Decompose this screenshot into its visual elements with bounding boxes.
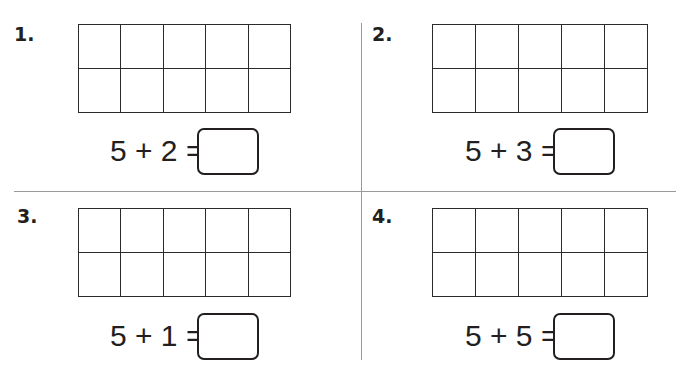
ten-frame-cell[interactable] bbox=[249, 69, 291, 113]
ten-frame-cell[interactable] bbox=[562, 69, 605, 113]
ten-frame-cell[interactable] bbox=[164, 209, 206, 253]
ten-frame-cell[interactable] bbox=[206, 25, 248, 69]
ten-frame-cell[interactable] bbox=[476, 25, 519, 69]
ten-frame-cell[interactable] bbox=[433, 209, 476, 253]
ten-frame-cell[interactable] bbox=[433, 25, 476, 69]
ten-frame-cell[interactable] bbox=[249, 209, 291, 253]
ten-frame-cell[interactable] bbox=[562, 209, 605, 253]
ten-frame-cell[interactable] bbox=[605, 209, 648, 253]
ten-frame bbox=[78, 24, 291, 113]
ten-frame-cell[interactable] bbox=[519, 253, 562, 297]
ten-frame-cell[interactable] bbox=[433, 69, 476, 113]
answer-box[interactable] bbox=[197, 313, 259, 360]
problem-number: 1. bbox=[14, 25, 34, 44]
ten-frame-cell[interactable] bbox=[605, 69, 648, 113]
ten-frame-cell[interactable] bbox=[519, 209, 562, 253]
horizontal-divider bbox=[14, 191, 676, 192]
equation: 5 + 3 = bbox=[465, 136, 558, 166]
problem-number: 3. bbox=[17, 207, 37, 226]
ten-frame-cell[interactable] bbox=[562, 25, 605, 69]
ten-frame-cell[interactable] bbox=[121, 25, 163, 69]
ten-frame-cell[interactable] bbox=[476, 209, 519, 253]
problem-number: 4. bbox=[372, 207, 392, 226]
equation: 5 + 1 = bbox=[110, 321, 203, 351]
ten-frame-cell[interactable] bbox=[433, 253, 476, 297]
ten-frame-cell[interactable] bbox=[206, 209, 248, 253]
ten-frame-cell[interactable] bbox=[79, 253, 121, 297]
ten-frame-cell[interactable] bbox=[79, 209, 121, 253]
ten-frame-cell[interactable] bbox=[79, 69, 121, 113]
answer-box[interactable] bbox=[197, 128, 259, 175]
ten-frame-cell[interactable] bbox=[79, 25, 121, 69]
ten-frame-cell[interactable] bbox=[206, 253, 248, 297]
ten-frame bbox=[78, 208, 291, 297]
equation: 5 + 2 = bbox=[110, 136, 203, 166]
ten-frame bbox=[432, 24, 648, 113]
answer-box[interactable] bbox=[553, 128, 615, 175]
ten-frame-cell[interactable] bbox=[605, 253, 648, 297]
ten-frame-cell[interactable] bbox=[121, 69, 163, 113]
ten-frame-cell[interactable] bbox=[121, 253, 163, 297]
ten-frame-cell[interactable] bbox=[121, 209, 163, 253]
ten-frame-cell[interactable] bbox=[206, 69, 248, 113]
ten-frame-cell[interactable] bbox=[164, 69, 206, 113]
ten-frame-cell[interactable] bbox=[476, 69, 519, 113]
ten-frame-cell[interactable] bbox=[519, 25, 562, 69]
ten-frame-cell[interactable] bbox=[476, 253, 519, 297]
vertical-divider bbox=[361, 23, 362, 360]
ten-frame-cell[interactable] bbox=[519, 69, 562, 113]
ten-frame-cell[interactable] bbox=[562, 253, 605, 297]
ten-frame-cell[interactable] bbox=[249, 25, 291, 69]
ten-frame-cell[interactable] bbox=[249, 253, 291, 297]
problem-number: 2. bbox=[372, 25, 392, 44]
ten-frame-cell[interactable] bbox=[164, 25, 206, 69]
ten-frame bbox=[432, 208, 648, 297]
answer-box[interactable] bbox=[553, 313, 615, 360]
ten-frame-cell[interactable] bbox=[605, 25, 648, 69]
equation: 5 + 5 = bbox=[465, 321, 558, 351]
ten-frame-cell[interactable] bbox=[164, 253, 206, 297]
